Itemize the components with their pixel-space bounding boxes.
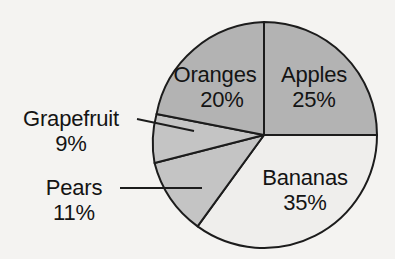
slice-label-pears-value: 11% — [53, 200, 95, 225]
pie-slices-group — [153, 22, 377, 248]
slice-label-oranges-value: 20% — [200, 87, 243, 112]
pie-chart-figure: Apples 25% Bananas 35% Oranges 20% Grape… — [0, 0, 395, 259]
slice-label-grapefruit-value: 9% — [55, 131, 86, 156]
slice-label-apples-value: 25% — [292, 87, 335, 112]
slice-label-grapefruit: Grapefruit 9% — [23, 106, 119, 156]
slice-label-bananas-value: 35% — [283, 190, 326, 215]
slice-label-oranges-name: Oranges — [174, 62, 257, 87]
slice-label-pears: Pears 11% — [46, 175, 103, 225]
slice-label-bananas-name: Bananas — [262, 165, 348, 190]
slice-label-grapefruit-name: Grapefruit — [23, 106, 119, 131]
slice-label-pears-name: Pears — [46, 175, 103, 200]
pie-chart-canvas: Apples 25% Bananas 35% Oranges 20% Grape… — [0, 0, 395, 259]
slice-label-apples-name: Apples — [281, 62, 347, 87]
